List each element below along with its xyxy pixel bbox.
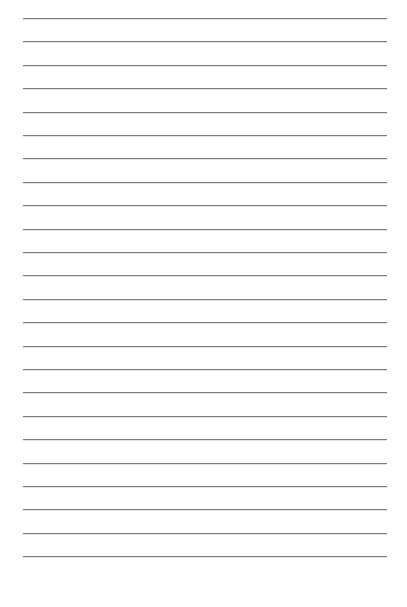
ruled-line xyxy=(23,275,387,276)
ruled-line xyxy=(23,112,387,113)
ruled-line xyxy=(23,65,387,66)
ruled-line xyxy=(23,556,387,557)
ruled-line xyxy=(23,252,387,253)
ruled-line xyxy=(23,392,387,393)
ruled-line xyxy=(23,439,387,440)
ruled-line xyxy=(23,41,387,42)
ruled-line xyxy=(23,88,387,89)
ruled-line xyxy=(23,135,387,136)
ruled-line xyxy=(23,369,387,370)
ruled-line xyxy=(23,158,387,159)
ruled-line xyxy=(23,416,387,417)
ruled-line xyxy=(23,299,387,300)
ruled-line xyxy=(23,229,387,230)
ruled-line xyxy=(23,18,387,19)
lined-paper-page xyxy=(0,0,407,607)
ruled-line xyxy=(23,182,387,183)
ruled-line xyxy=(23,346,387,347)
ruled-line xyxy=(23,205,387,206)
ruled-line xyxy=(23,322,387,323)
ruled-line xyxy=(23,463,387,464)
ruled-line xyxy=(23,533,387,534)
ruled-line xyxy=(23,509,387,510)
ruled-line xyxy=(23,486,387,487)
